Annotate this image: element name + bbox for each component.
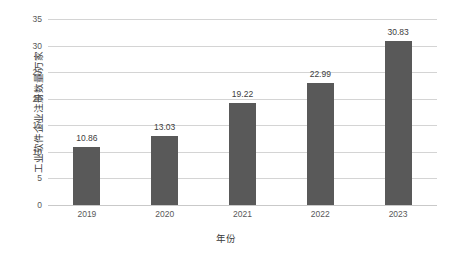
x-axis-title: 年份: [0, 231, 451, 245]
y-axis-tick-label: 15: [8, 120, 42, 130]
y-axis-tick-label: 25: [8, 67, 42, 77]
y-axis-tick-label: 35: [8, 14, 42, 24]
bar: [307, 83, 334, 205]
x-axis-tick-label: 2023: [368, 209, 428, 219]
x-axis-tick-label: 2019: [57, 209, 117, 219]
x-axis-tick-label: 2020: [135, 209, 195, 219]
y-axis-tick-label: 10: [8, 147, 42, 157]
bar-value-label: 13.03: [135, 122, 195, 132]
x-axis-tick-labels: 20192020202120222023: [48, 209, 437, 225]
gridline: [48, 19, 437, 20]
gridline: [48, 72, 437, 73]
bar-value-label: 19.22: [213, 89, 273, 99]
bar-value-label: 22.99: [290, 69, 350, 79]
y-axis-tick-label: 20: [8, 94, 42, 104]
bar-value-label: 30.83: [368, 27, 428, 37]
gridline: [48, 46, 437, 47]
bar: [73, 147, 100, 205]
x-axis-tick-label: 2021: [213, 209, 273, 219]
y-axis-tick-labels: 05101520253035: [6, 19, 42, 205]
bar: [229, 103, 256, 205]
y-axis-tick-label: 0: [8, 200, 42, 210]
y-axis-tick-label: 30: [8, 41, 42, 51]
bar: [151, 136, 178, 205]
y-axis-tick-label: 5: [8, 173, 42, 183]
gridline: [48, 205, 437, 206]
bar-value-label: 10.86: [57, 133, 117, 143]
x-axis-tick-label: 2022: [290, 209, 350, 219]
bar-chart-figure: 工业软件企业注册数量/万家 05101520253035 10.8613.031…: [0, 0, 451, 260]
bar: [385, 41, 412, 205]
plot-area: 10.8613.0319.2222.9930.83: [48, 19, 437, 205]
